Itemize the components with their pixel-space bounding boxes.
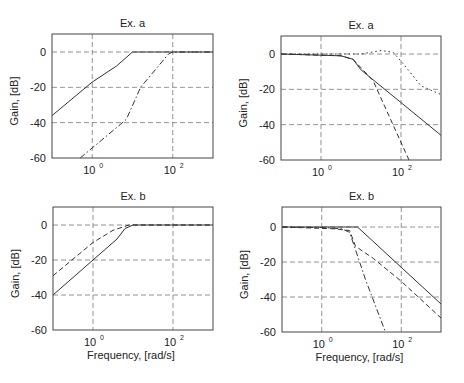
series-dashed [282, 227, 441, 318]
series-dotted [281, 51, 441, 95]
y-tick-label: 0 [270, 221, 276, 233]
x-axis-label: Frequency, [rad/s] [87, 349, 175, 361]
x-tick-label: 10 [313, 338, 325, 350]
series-solid [282, 227, 441, 304]
x-tick-exponent: 2 [180, 334, 184, 341]
series-dash-dot [80, 52, 213, 158]
series-dashed [281, 54, 409, 160]
y-tick-label: -20 [31, 254, 47, 266]
x-axis-label: Frequency, [rad/s] [316, 351, 404, 363]
y-tick-label: -60 [259, 154, 275, 166]
series-solid [281, 54, 441, 135]
y-axis-label: Gain, [dB] [8, 77, 20, 126]
y-tick-label: -40 [260, 291, 276, 303]
y-axis-label: Gain, [dB] [9, 249, 21, 298]
x-tick-label: 10 [392, 166, 404, 178]
y-tick-label: -60 [31, 324, 47, 336]
series-dash-dot [282, 227, 385, 332]
x-tick-exponent: 0 [100, 334, 104, 341]
y-tick-label: 0 [40, 46, 46, 58]
y-axis-label: Gain, [dB] [238, 250, 250, 299]
subplot-title: Ex. b [349, 190, 374, 202]
subplot-top-left: Ex. a0-20-40-60100102Gain, [dB] [8, 17, 213, 176]
subplot-bottom-left: Ex. b0-20-40-60100102Gain, [dB]Frequency… [9, 190, 213, 361]
y-tick-label: 0 [41, 219, 47, 231]
x-tick-label: 10 [83, 164, 95, 176]
series-dashed [53, 225, 213, 276]
x-tick-label: 10 [392, 338, 404, 350]
x-tick-exponent: 2 [408, 336, 412, 343]
y-tick-label: -40 [259, 119, 275, 131]
x-tick-label: 10 [312, 166, 324, 178]
x-tick-exponent: 0 [328, 164, 332, 171]
y-tick-label: -20 [259, 83, 275, 95]
x-tick-exponent: 2 [180, 162, 184, 169]
y-tick-label: -60 [30, 152, 46, 164]
subplot-title: Ex. a [348, 19, 374, 31]
y-tick-label: -60 [260, 326, 276, 338]
x-tick-exponent: 2 [408, 164, 412, 171]
x-tick-exponent: 0 [329, 336, 333, 343]
y-tick-label: -40 [31, 289, 47, 301]
x-tick-label: 10 [84, 336, 96, 348]
x-tick-label: 10 [164, 164, 176, 176]
x-tick-label: 10 [164, 336, 176, 348]
subplot-bottom-right: Ex. b0-20-40-60100102Gain, [dB]Frequency… [238, 190, 441, 363]
subplot-title: Ex. b [120, 190, 145, 202]
y-tick-label: -20 [260, 256, 276, 268]
bode-figure: Ex. a0-20-40-60100102Gain, [dB]Ex. a0-20… [0, 0, 464, 383]
y-tick-label: -20 [30, 81, 46, 93]
y-tick-label: -40 [30, 117, 46, 129]
axes-frame [282, 207, 441, 332]
y-axis-label: Gain, [dB] [237, 79, 249, 128]
subplot-top-right: Ex. a0-20-40-60100102Gain, [dB] [237, 19, 441, 178]
x-tick-exponent: 0 [99, 162, 103, 169]
subplot-title: Ex. a [120, 17, 146, 29]
y-tick-label: 0 [269, 48, 275, 60]
series-solid [52, 52, 213, 116]
